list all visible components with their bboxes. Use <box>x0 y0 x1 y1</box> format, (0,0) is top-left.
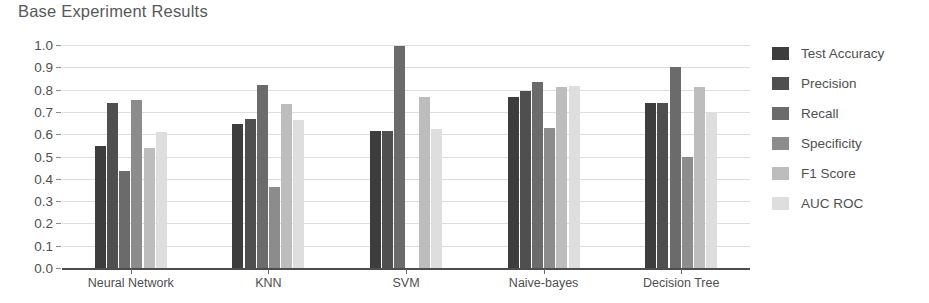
bar-group <box>508 45 580 268</box>
bar[interactable] <box>694 87 705 268</box>
legend-label: AUC ROC <box>801 196 863 211</box>
bar[interactable] <box>281 104 292 268</box>
y-axis-tick-mark <box>56 45 61 46</box>
x-axis-category-label: Decision Tree <box>643 276 719 290</box>
y-axis-tick-label: 0.5 <box>34 149 53 164</box>
bar[interactable] <box>370 131 381 268</box>
bar-group <box>232 45 304 268</box>
x-axis-category-label: KNN <box>255 276 281 290</box>
legend-item[interactable]: Specificity <box>772 128 927 158</box>
x-axis-tick-mark <box>544 269 545 274</box>
bar[interactable] <box>682 157 693 269</box>
bar[interactable] <box>556 87 567 268</box>
y-axis-tick-mark <box>56 67 61 68</box>
legend-item[interactable]: Recall <box>772 98 927 128</box>
bar[interactable] <box>245 119 256 268</box>
x-axis-category-label: Naive-bayes <box>509 276 578 290</box>
bar[interactable] <box>156 132 167 268</box>
y-axis-tick-label: 0.0 <box>34 261 53 276</box>
legend-swatch <box>772 47 789 60</box>
legend-label: Specificity <box>801 136 862 151</box>
legend-label: Precision <box>801 76 857 91</box>
bar[interactable] <box>269 187 280 268</box>
y-axis-tick-mark <box>56 90 61 91</box>
y-axis-tick-label: 1.0 <box>34 38 53 53</box>
bar[interactable] <box>107 103 118 268</box>
plot-area <box>62 45 750 268</box>
legend-swatch <box>772 137 789 150</box>
legend-label: Recall <box>801 106 839 121</box>
bar[interactable] <box>232 124 243 268</box>
x-axis-tick-mark <box>406 269 407 274</box>
chart-legend: Test AccuracyPrecisionRecallSpecificityF… <box>772 38 927 218</box>
y-axis-tick-label: 0.3 <box>34 194 53 209</box>
legend-item[interactable]: Test Accuracy <box>772 38 927 68</box>
bar[interactable] <box>95 146 106 268</box>
y-axis-tick-mark <box>56 246 61 247</box>
legend-swatch <box>772 197 789 210</box>
x-axis-category-label: Neural Network <box>88 276 174 290</box>
chart-title: Base Experiment Results <box>18 2 208 21</box>
bar[interactable] <box>257 85 268 268</box>
x-axis-tick-mark <box>131 269 132 274</box>
bar-group <box>370 45 442 268</box>
bar[interactable] <box>645 103 656 268</box>
y-axis-tick-label: 0.4 <box>34 171 53 186</box>
bar[interactable] <box>419 97 430 268</box>
legend-swatch <box>772 167 789 180</box>
bar[interactable] <box>131 100 142 268</box>
legend-label: F1 Score <box>801 166 856 181</box>
y-axis-tick-mark <box>56 179 61 180</box>
y-axis-tick-label: 0.9 <box>34 60 53 75</box>
bar[interactable] <box>569 86 580 268</box>
y-axis-tick-mark <box>56 134 61 135</box>
bar-group <box>645 45 717 268</box>
bar[interactable] <box>431 129 442 268</box>
y-axis-tick-mark <box>56 201 61 202</box>
bar[interactable] <box>670 67 681 268</box>
bar[interactable] <box>382 131 393 268</box>
bar[interactable] <box>144 148 155 268</box>
bar[interactable] <box>119 171 130 268</box>
bar[interactable] <box>657 103 668 268</box>
legend-swatch <box>772 77 789 90</box>
y-axis-tick-mark <box>56 112 61 113</box>
bar[interactable] <box>532 82 543 268</box>
bar[interactable] <box>544 128 555 268</box>
legend-item[interactable]: AUC ROC <box>772 188 927 218</box>
y-axis-tick-mark <box>56 157 61 158</box>
y-axis: 0.00.10.20.30.40.50.60.70.80.91.0 <box>0 45 53 268</box>
bar[interactable] <box>508 97 519 268</box>
legend-label: Test Accuracy <box>801 46 884 61</box>
x-axis-tick-mark <box>268 269 269 274</box>
legend-swatch <box>772 107 789 120</box>
y-axis-tick-label: 0.8 <box>34 82 53 97</box>
y-axis-tick-label: 0.6 <box>34 127 53 142</box>
y-axis-tick-mark <box>56 223 61 224</box>
x-axis-category-label: SVM <box>392 276 419 290</box>
y-axis-tick-label: 0.7 <box>34 104 53 119</box>
bar-group <box>95 45 167 268</box>
y-axis-tick-label: 0.2 <box>34 216 53 231</box>
legend-item[interactable]: F1 Score <box>772 158 927 188</box>
x-axis-tick-mark <box>681 269 682 274</box>
bar[interactable] <box>293 120 304 268</box>
legend-item[interactable]: Precision <box>772 68 927 98</box>
bar[interactable] <box>394 46 405 268</box>
y-axis-tick-mark <box>56 268 61 269</box>
bar[interactable] <box>520 91 531 268</box>
y-axis-tick-label: 0.1 <box>34 238 53 253</box>
bar[interactable] <box>706 112 717 268</box>
chart-figure: Base Experiment Results 0.00.10.20.30.40… <box>0 0 929 303</box>
